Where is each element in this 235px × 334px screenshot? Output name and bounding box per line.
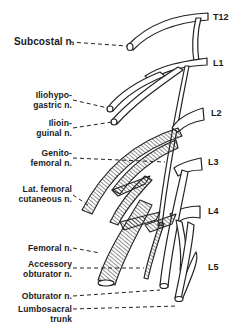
label-lumbosacral-trunk: Lumbosacral trunk xyxy=(18,304,72,324)
label-femoral: Femoral n. xyxy=(28,243,72,253)
segment-label-l3: L3 xyxy=(208,157,219,167)
label-line: Lumbosacral xyxy=(18,304,72,314)
label-line: cutaneous n. xyxy=(18,194,72,204)
segment-label-l2: L2 xyxy=(211,108,222,118)
segment-label-t12: T12 xyxy=(213,12,229,22)
label-genitofemoral: Genito- femoral n. xyxy=(30,148,72,168)
label-obturator: Obturator n. xyxy=(22,291,72,301)
label-line: Iliohypo- xyxy=(33,90,72,100)
label-accessory-obturator: Accessory obturator n. xyxy=(23,259,72,279)
segment-label-l1: L1 xyxy=(213,58,224,68)
label-line: femoral n. xyxy=(30,158,72,168)
label-line: Ilioin- xyxy=(36,118,72,128)
label-line: Lat. femoral xyxy=(18,184,72,194)
label-line: Accessory xyxy=(23,259,72,269)
segment-label-l5: L5 xyxy=(208,262,219,272)
label-lateral-femoral-cutaneous: Lat. femoral cutaneous n. xyxy=(18,184,72,204)
label-line: guinal n. xyxy=(36,128,72,138)
label-line: obturator n. xyxy=(23,269,72,279)
label-iliohypogastric: Iliohypo- gastric n. xyxy=(33,90,72,110)
label-line: trunk xyxy=(18,314,72,324)
t12-l1-connector xyxy=(193,18,201,62)
label-line: Genito- xyxy=(30,148,72,158)
label-line: gastric n. xyxy=(33,100,72,110)
label-ilioinguinal: Ilioin- guinal n. xyxy=(36,118,72,138)
segment-label-l4: L4 xyxy=(208,206,219,216)
label-subcostal: Subcostal n. xyxy=(14,37,75,47)
